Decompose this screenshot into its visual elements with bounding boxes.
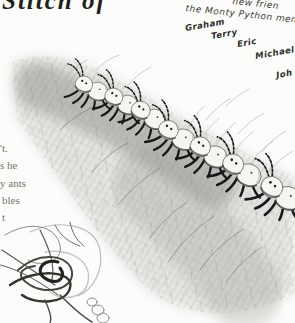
body-text-line: y ants	[0, 175, 26, 192]
sketch-illustration	[0, 222, 109, 323]
chapter-heading-fragment: Stitch of	[2, 0, 107, 13]
ants-illustration	[0, 0, 295, 323]
body-text-fragments: 't. s he y ants bles t	[0, 140, 26, 226]
body-text-line: t	[0, 209, 26, 226]
body-text-line: s he	[0, 157, 26, 174]
book-page: Stitch of new frien the Monty Python mem…	[0, 0, 295, 323]
body-text-line: bles	[0, 192, 26, 209]
body-text-line: 't.	[0, 140, 26, 157]
